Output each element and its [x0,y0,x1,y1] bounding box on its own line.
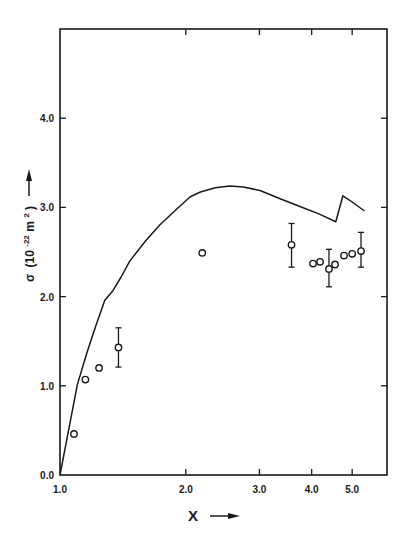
x-tick-labels: 1.02.03.04.05.0 [53,484,360,495]
open-circle-marker [332,261,338,267]
data-point [349,251,355,257]
theory-line [60,186,365,475]
open-circle-marker [310,260,316,266]
plot-frame [60,29,387,475]
x-tick-label: 3.0 [252,484,266,495]
open-circle-marker [317,259,323,265]
open-circle-marker [82,376,88,382]
x-tick-label: 2.0 [179,484,193,495]
y-tick-label: 1.0 [40,381,54,392]
data-point [341,252,347,258]
open-circle-marker [358,248,364,254]
data-points [71,223,364,437]
y-axis-title: σ (10 -22 m 2 ) [18,169,37,282]
y-tick-label: 2.0 [40,292,54,303]
data-point [326,249,332,286]
data-point [199,250,205,256]
x-tick-label: 1.0 [53,484,67,495]
y-tick-label: 3.0 [40,202,54,213]
y-tick-label: 0.0 [40,470,54,481]
open-circle-marker [349,251,355,257]
chart: 1.02.03.04.05.0 0.01.02.03.04.0 X σ (10 … [0,0,405,543]
right-arrow-icon [210,513,240,519]
data-point [115,328,121,367]
data-point [71,431,77,437]
y-tick-label: 4.0 [40,113,54,124]
y-tick-labels: 0.01.02.03.04.0 [40,113,54,481]
open-circle-marker [71,431,77,437]
open-circle-marker [326,266,332,272]
y-axis-label: σ (10 -22 m 2 ) [18,206,37,282]
open-circle-marker [341,252,347,258]
open-circle-marker [199,250,205,256]
axis-ticks [60,29,387,475]
data-point [310,260,316,266]
open-circle-marker [115,344,121,350]
data-point [317,259,323,265]
x-tick-label: 4.0 [305,484,319,495]
data-point [82,376,88,382]
data-point [332,261,338,267]
x-axis-label: X [188,507,198,524]
x-axis-title: X [188,507,240,524]
data-point [96,365,102,371]
plot-border [60,29,387,475]
theory-curve [60,186,365,475]
open-circle-marker [288,242,294,248]
x-tick-label: 5.0 [345,484,359,495]
up-arrow-icon [26,169,32,196]
data-point [358,232,364,267]
open-circle-marker [96,365,102,371]
data-point [288,223,294,267]
